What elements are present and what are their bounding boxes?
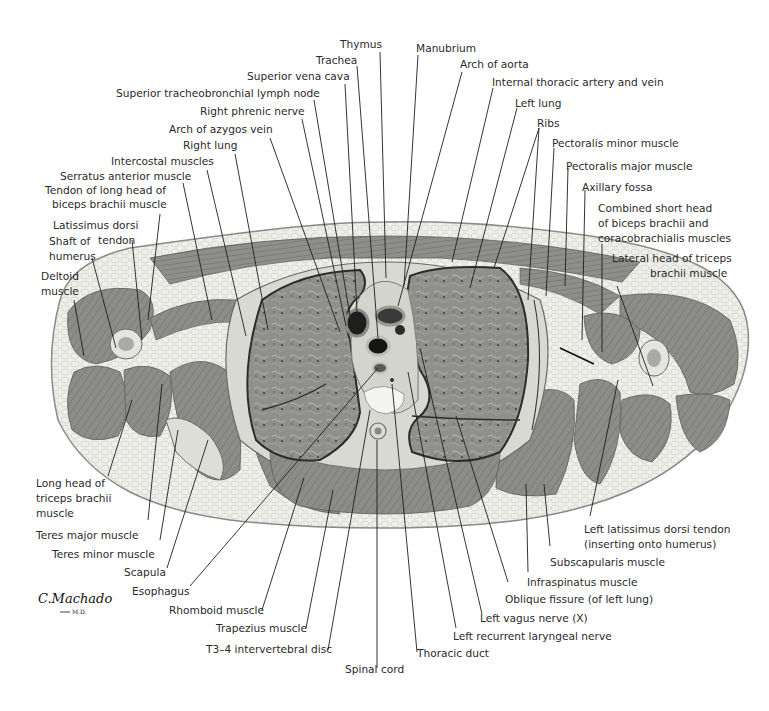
anatomy-figure: Thymus Trachea Superior vena cava Superi… — [0, 0, 769, 711]
label-oblique-fissure: Oblique fissure (of left lung) — [505, 593, 653, 605]
label-teres-minor-muscle: Teres minor muscle — [51, 548, 155, 560]
label-left-vagus-nerve: Left vagus nerve (X) — [480, 612, 588, 624]
left-lung — [407, 267, 528, 461]
svg-text:M.D.: M.D. — [72, 608, 87, 615]
label-pectoralis-major-muscle: Pectoralis major muscle — [566, 160, 692, 172]
label-superior-tracheobronchial-lymph-node: Superior tracheobronchial lymph node — [116, 87, 320, 99]
label-trachea: Trachea — [315, 54, 357, 66]
label-intercostal-muscles: Intercostal muscles — [111, 155, 214, 167]
label-left-lung: Left lung — [515, 97, 561, 109]
thoracic-duct-shape — [390, 378, 394, 382]
label-pectoralis-minor-muscle: Pectoralis minor muscle — [552, 137, 679, 149]
label-arch-of-aorta: Arch of aorta — [460, 58, 529, 70]
label-t3-4-intervertebral-disc: T3–4 intervertebral disc — [205, 643, 332, 655]
label-rhomboid-muscle: Rhomboid muscle — [169, 604, 264, 616]
trachea-shape — [367, 337, 389, 355]
label-scapula: Scapula — [124, 566, 166, 578]
label-shaft-of-humerus: Shaft of humerus — [49, 235, 96, 262]
label-right-phrenic-nerve: Right phrenic nerve — [200, 105, 305, 117]
labels-bottom: Rhomboid muscle Trapezius muscle T3–4 in… — [169, 604, 612, 675]
label-serratus-anterior-muscle: Serratus anterior muscle — [60, 170, 191, 182]
label-axillary-fossa: Axillary fossa — [582, 181, 653, 193]
label-left-recurrent-laryngeal-nerve: Left recurrent laryngeal nerve — [453, 630, 612, 642]
svg-text:C.Machado: C.Machado — [38, 591, 112, 606]
thorax-cross-section — [51, 222, 748, 528]
label-superior-vena-cava: Superior vena cava — [247, 70, 350, 82]
aorta-shape — [376, 307, 404, 325]
artist-signature: C.Machado M.D. — [38, 591, 112, 615]
label-thoracic-duct: Thoracic duct — [416, 647, 489, 659]
label-arch-of-azygos-vein: Arch of azygos vein — [169, 123, 273, 135]
label-tendon-long-head-biceps: Tendon of long head of biceps brachii mu… — [44, 184, 169, 210]
label-manubrium: Manubrium — [416, 42, 476, 54]
label-left-latissimus-dorsi-tendon: Left latissimus dorsi tendon (inserting … — [584, 523, 734, 550]
label-esophagus: Esophagus — [132, 585, 190, 597]
labels-top: Thymus Trachea Superior vena cava Superi… — [60, 38, 692, 193]
label-subscapularis-muscle: Subscapularis muscle — [550, 556, 665, 568]
label-trapezius-muscle: Trapezius muscle — [215, 622, 307, 634]
label-thymus: Thymus — [339, 38, 382, 50]
label-ribs: Ribs — [537, 117, 560, 129]
label-infraspinatus-muscle: Infraspinatus muscle — [527, 576, 637, 588]
label-spinal-cord: Spinal cord — [345, 663, 404, 675]
label-long-head-triceps: Long head of triceps brachii muscle — [36, 477, 115, 519]
label-right-lung: Right lung — [183, 139, 237, 151]
label-combined-short-head: Combined short head of biceps brachii an… — [598, 202, 731, 244]
label-internal-thoracic-artery-and-vein: Internal thoracic artery and vein — [492, 76, 664, 88]
label-teres-major-muscle: Teres major muscle — [35, 529, 139, 541]
